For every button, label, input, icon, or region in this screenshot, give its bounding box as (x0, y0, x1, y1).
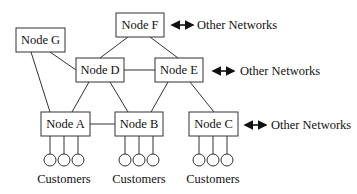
external-label-c: Other Networks (271, 118, 351, 132)
external-link-f: Other Networks (172, 18, 277, 32)
node-g: Node G (16, 28, 65, 52)
edge-d-b (110, 82, 128, 112)
customer-icon (193, 154, 205, 166)
node-d: Node D (76, 58, 124, 82)
edge-g-d (50, 52, 76, 70)
customer-icon (44, 154, 56, 166)
customer-icon (221, 154, 233, 166)
external-link-e: Other Networks (213, 64, 320, 78)
node-c: Node C (189, 112, 238, 136)
customer-icon (207, 154, 219, 166)
customer-icon (147, 154, 159, 166)
node-f: Node F (116, 13, 164, 37)
edge-d-a (72, 82, 89, 112)
customers-c: Customers (186, 136, 240, 186)
node-d-label: Node D (80, 63, 119, 77)
customers-label-c: Customers (186, 172, 240, 186)
node-e-label: Node E (160, 63, 198, 77)
node-g-label: Node G (21, 33, 60, 47)
customers-label-b: Customers (112, 172, 166, 186)
customer-icon (119, 154, 131, 166)
edge-e-b (151, 82, 168, 112)
node-e: Node E (155, 58, 203, 82)
customers-b: Customers (112, 136, 166, 186)
customer-icon (72, 154, 84, 166)
external-label-e: Other Networks (240, 64, 320, 78)
node-b: Node B (115, 112, 163, 136)
external-link-c: Other Networks (245, 118, 351, 132)
customer-icon (58, 154, 70, 166)
edge-e-c (190, 82, 214, 112)
edge-f-e (150, 37, 178, 58)
customer-icon (133, 154, 145, 166)
edge-f-d (100, 37, 128, 58)
node-f-label: Node F (121, 18, 158, 32)
node-a-label: Node A (46, 117, 85, 131)
node-b-label: Node B (120, 117, 159, 131)
node-a: Node A (41, 112, 90, 136)
edge-g-a (31, 52, 50, 112)
customers-label-a: Customers (37, 172, 91, 186)
external-label-f: Other Networks (197, 18, 277, 32)
node-c-label: Node C (194, 117, 233, 131)
network-diagram: Node F Node G Node D Node E Node A Node … (0, 0, 357, 194)
customers-a: Customers (37, 136, 91, 186)
